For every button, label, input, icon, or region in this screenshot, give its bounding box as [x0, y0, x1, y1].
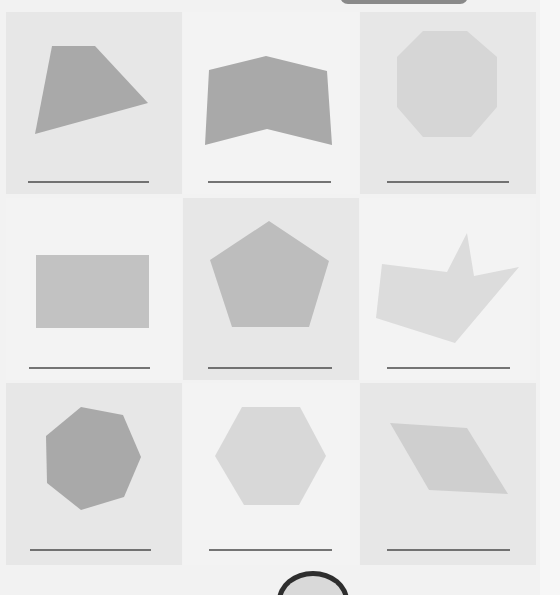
octagon-shape	[397, 31, 497, 137]
shapes-layer	[0, 0, 560, 595]
hexagon-shape	[215, 407, 326, 505]
concave-hexagon-shape	[205, 56, 332, 145]
rectangle-shape	[36, 255, 149, 328]
parallelogram-shape	[390, 423, 508, 494]
pentagon-shape	[210, 221, 329, 327]
quadrilateral-shape	[35, 46, 148, 134]
worksheet-page	[0, 0, 560, 595]
irregular-polygon-shape	[376, 233, 519, 343]
heptagon-shape	[46, 407, 141, 510]
